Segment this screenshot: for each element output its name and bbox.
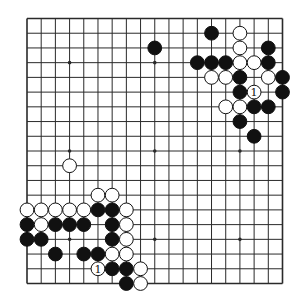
white-stone[interactable]	[233, 26, 247, 40]
white-stone[interactable]	[247, 56, 261, 70]
black-stone[interactable]	[276, 85, 290, 99]
black-stone[interactable]	[91, 203, 105, 217]
black-stone[interactable]	[148, 41, 162, 55]
white-stone[interactable]	[77, 203, 91, 217]
white-stone[interactable]	[20, 203, 34, 217]
white-stone[interactable]: 1	[247, 85, 261, 99]
black-stone[interactable]	[119, 262, 133, 276]
black-stone[interactable]	[48, 247, 62, 261]
star-point	[68, 238, 72, 242]
white-stone[interactable]	[119, 247, 133, 261]
white-stone[interactable]	[233, 41, 247, 55]
star-point	[68, 61, 72, 65]
black-stone[interactable]	[91, 247, 105, 261]
star-point	[153, 149, 157, 153]
black-stone[interactable]	[247, 129, 261, 143]
black-stone[interactable]	[105, 218, 119, 232]
black-stone[interactable]	[233, 115, 247, 129]
black-stone[interactable]	[105, 262, 119, 276]
black-stone[interactable]	[20, 218, 34, 232]
white-stone[interactable]	[34, 203, 48, 217]
black-stone[interactable]	[261, 41, 275, 55]
black-stone[interactable]	[20, 232, 34, 246]
white-stone[interactable]	[205, 70, 219, 84]
black-stone[interactable]	[77, 247, 91, 261]
white-stone[interactable]	[219, 100, 233, 114]
move-number-label: 1	[94, 263, 101, 276]
star-point	[238, 238, 242, 242]
white-stone[interactable]	[48, 203, 62, 217]
white-stone[interactable]	[219, 70, 233, 84]
star-point	[238, 149, 242, 153]
black-stone[interactable]	[261, 100, 275, 114]
black-stone[interactable]	[48, 218, 62, 232]
star-point	[153, 61, 157, 65]
black-stone[interactable]	[105, 232, 119, 246]
white-stone[interactable]	[119, 218, 133, 232]
black-stone[interactable]	[205, 56, 219, 70]
black-stone[interactable]	[190, 56, 204, 70]
white-stone[interactable]	[119, 203, 133, 217]
black-stone[interactable]	[247, 100, 261, 114]
black-stone[interactable]	[34, 232, 48, 246]
black-stone[interactable]	[233, 85, 247, 99]
black-stone[interactable]	[219, 56, 233, 70]
white-stone[interactable]	[134, 277, 148, 291]
white-stone[interactable]	[134, 262, 148, 276]
black-stone[interactable]	[233, 70, 247, 84]
black-stone[interactable]	[77, 218, 91, 232]
white-stone[interactable]: 1	[91, 262, 105, 276]
black-stone[interactable]	[261, 56, 275, 70]
black-stone[interactable]	[63, 218, 77, 232]
white-stone[interactable]	[105, 188, 119, 202]
white-stone[interactable]	[105, 247, 119, 261]
white-stone[interactable]	[63, 203, 77, 217]
move-number-label: 1	[251, 86, 258, 99]
black-stone[interactable]	[119, 277, 133, 291]
white-stone[interactable]	[233, 56, 247, 70]
white-stone[interactable]	[63, 159, 77, 173]
go-board[interactable]: 11	[0, 0, 307, 308]
star-point	[68, 149, 72, 153]
star-point	[153, 238, 157, 242]
black-stone[interactable]	[105, 203, 119, 217]
white-stone[interactable]	[261, 70, 275, 84]
go-board-canvas[interactable]: 11	[0, 0, 307, 308]
black-stone[interactable]	[205, 26, 219, 40]
white-stone[interactable]	[233, 100, 247, 114]
white-stone[interactable]	[119, 232, 133, 246]
white-stone[interactable]	[34, 218, 48, 232]
white-stone[interactable]	[91, 188, 105, 202]
black-stone[interactable]	[276, 70, 290, 84]
